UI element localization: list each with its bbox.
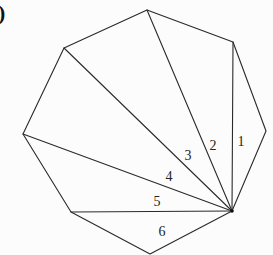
diagonals-group [23, 10, 234, 213]
triangle-labels-group: 123456 [154, 134, 245, 239]
diagonal-to-left [23, 134, 232, 211]
diagonal-to-lower-left [71, 211, 232, 212]
triangle-label-3: 3 [185, 148, 192, 163]
diagonal-to-upper-left [64, 48, 232, 211]
diagonal-to-upper-right [232, 42, 233, 211]
triangulated-octagon-diagram: 123456 [0, 0, 273, 255]
hub-vertex-dot [230, 209, 234, 213]
triangle-label-4: 4 [166, 169, 173, 184]
octagon-outline [23, 10, 266, 254]
figure-canvas: ) 123456 [0, 0, 273, 255]
triangle-label-1: 1 [238, 134, 245, 149]
triangle-label-5: 5 [154, 194, 161, 209]
triangle-label-2: 2 [210, 138, 217, 153]
diagonal-to-top [147, 10, 232, 211]
triangle-label-6: 6 [159, 224, 166, 239]
